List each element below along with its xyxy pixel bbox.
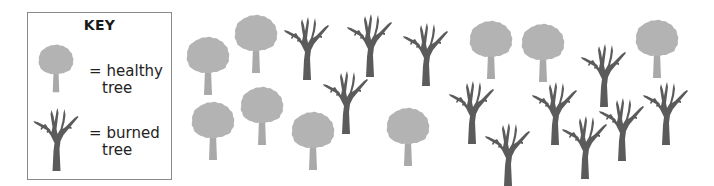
burned-tree-icon <box>347 13 392 77</box>
healthy-tree-icon <box>469 20 513 80</box>
healthy-tree-icon <box>386 107 430 167</box>
healthy-tree-icon <box>186 36 230 96</box>
healthy-tree-icon <box>191 101 235 161</box>
burned-tree-icon <box>599 97 644 161</box>
burned-tree-icon <box>323 70 368 134</box>
forest-field <box>0 0 714 186</box>
burned-tree-icon <box>485 122 530 186</box>
healthy-tree-icon <box>521 23 565 83</box>
healthy-tree-icon <box>234 14 278 74</box>
burned-tree-icon <box>403 22 448 86</box>
healthy-tree-icon <box>240 86 284 146</box>
burned-tree-icon <box>643 81 688 145</box>
healthy-tree-icon <box>635 19 679 79</box>
